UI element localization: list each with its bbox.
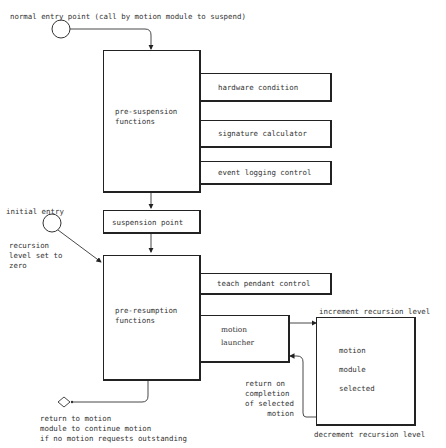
suspension-point-label: suspension point bbox=[112, 218, 183, 228]
return-diamond bbox=[58, 397, 70, 407]
signature-calculator-label: signature calculator bbox=[218, 129, 307, 139]
normal-entry-label: normal entry point (call by motion modul… bbox=[10, 12, 246, 22]
pre-suspension-label: pre-suspension functions bbox=[115, 107, 177, 127]
motion-module-line2: module bbox=[339, 365, 366, 375]
return-to-motion-note: return to motion module to continue moti… bbox=[40, 414, 187, 444]
teach-pendant-control-label: teach pendant control bbox=[217, 279, 310, 289]
motion-module-line3: selected bbox=[339, 384, 375, 394]
recursion-zero-note: recursion level set to zero bbox=[9, 241, 62, 271]
signature-calculator-box: signature calculator bbox=[200, 120, 332, 148]
suspension-point-box: suspension point bbox=[103, 210, 201, 234]
decrement-recursion-label: decrement recursion level bbox=[314, 430, 425, 440]
event-logging-control-label: event logging control bbox=[218, 168, 311, 178]
hardware-condition-label: hardware condition bbox=[218, 83, 298, 93]
motion-launcher-label: motion launcher bbox=[221, 323, 254, 349]
motion-launcher-box: motion launcher bbox=[200, 315, 290, 363]
pre-suspension-functions-box: pre-suspension functions bbox=[103, 50, 201, 193]
return-on-completion-note: return on completion of selected motion bbox=[245, 379, 294, 419]
motion-module-line1: motion bbox=[339, 346, 366, 356]
motion-module-selected-box: motion module selected bbox=[316, 317, 416, 426]
event-logging-control-box: event logging control bbox=[200, 161, 332, 185]
pre-resumption-functions-box: pre-resumption functions bbox=[103, 255, 201, 381]
initial-entry-label: initial entry bbox=[6, 207, 64, 217]
teach-pendant-control-box: teach pendant control bbox=[200, 273, 332, 295]
hardware-condition-box: hardware condition bbox=[200, 73, 332, 102]
increment-recursion-label: increment recursion level bbox=[319, 307, 430, 317]
pre-resumption-label: pre-resumption functions bbox=[115, 306, 177, 326]
normal-entry-circle bbox=[52, 20, 70, 38]
